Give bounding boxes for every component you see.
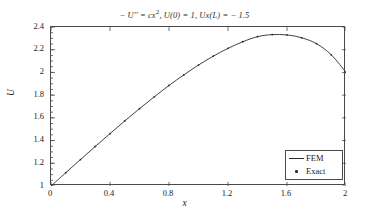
x-tick-label: 0.4	[89, 189, 129, 198]
x-tick-label: 1.6	[266, 189, 306, 198]
y-tick-label: 2.2	[0, 44, 44, 53]
x-tick-label: 0	[30, 189, 70, 198]
data-point	[65, 172, 67, 174]
figure-canvas: − U'' = cx2, U(0) = 1, Ux(L) = − 1.5 U x…	[0, 0, 369, 218]
chart-title: − U'' = cx2, U(0) = 1, Ux(L) = − 1.5	[0, 8, 369, 20]
data-point	[139, 108, 141, 110]
data-point	[301, 37, 303, 39]
chart-title-lhs: − U'' = cx	[120, 10, 156, 20]
legend-dot-icon	[289, 167, 305, 177]
legend-label-exact: Exact	[305, 167, 325, 176]
data-point	[168, 85, 170, 87]
data-point	[94, 146, 96, 148]
x-axis-label: x	[0, 198, 369, 208]
data-point	[286, 34, 288, 36]
data-point	[198, 64, 200, 66]
data-point	[109, 133, 111, 135]
data-point	[153, 96, 155, 98]
data-point	[124, 120, 126, 122]
legend-label-fem: FEM	[305, 154, 323, 163]
data-point	[257, 36, 259, 38]
data-point	[80, 159, 82, 161]
x-tick-label: 1.2	[207, 189, 247, 198]
data-point	[183, 74, 185, 76]
y-tick-label: 2	[0, 67, 44, 76]
data-point	[242, 41, 244, 43]
y-tick-label: 2.4	[0, 22, 44, 31]
y-tick-label: 1.4	[0, 135, 44, 144]
data-point	[271, 34, 273, 36]
y-tick-label: 1	[0, 181, 44, 190]
data-point	[212, 55, 214, 57]
legend-line-icon	[289, 154, 305, 164]
data-point	[227, 47, 229, 49]
chart-legend[interactable]: FEM Exact	[285, 150, 343, 180]
legend-item-fem[interactable]: FEM	[289, 152, 339, 165]
y-tick-label: 1.6	[0, 112, 44, 121]
chart-title-bc: , U(0) = 1, Ux(L) = − 1.5	[159, 10, 249, 20]
y-tick-label: 1.2	[0, 158, 44, 167]
data-point	[316, 43, 318, 45]
y-tick-label: 1.8	[0, 90, 44, 99]
x-tick-label: 0.8	[148, 189, 188, 198]
x-tick-label: 2	[325, 189, 365, 198]
legend-item-exact[interactable]: Exact	[289, 165, 339, 178]
data-point	[330, 54, 332, 56]
